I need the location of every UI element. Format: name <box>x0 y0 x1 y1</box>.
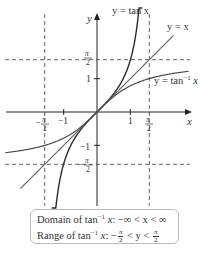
chart-plot: y x y = tan x y = x y = tan−1 x −1 1 1 −… <box>0 0 201 210</box>
domain-sup: −1 <box>98 213 105 221</box>
x-axis-label: x <box>186 115 192 127</box>
range-colon: : − <box>105 230 116 241</box>
range-sup: −1 <box>91 229 98 237</box>
tick-label-y-neg-pi-over-2-den: 2 <box>86 165 90 174</box>
curve-label-tan: y = tan x <box>112 5 150 16</box>
domain-range-box: Domain of tan−1 x: −∞ < x < ∞ Range of t… <box>30 209 179 244</box>
domain-rest: : −∞ < x < ∞ <box>112 214 166 225</box>
tick-label-x-neg-pi-over-2-den: 2 <box>43 124 47 133</box>
tick-label-y-pi-over-2-den: 2 <box>86 58 90 67</box>
range-prefix: Range of tan <box>37 230 91 241</box>
tick-label-x-pi-over-2-den: 2 <box>147 124 151 133</box>
tick-label-y-pi-over-2-num: π <box>85 49 89 58</box>
y-axis-label: y <box>86 12 92 24</box>
range-frac-high: π2 <box>153 229 159 244</box>
tick-label-y-neg-pi-over-2-num: π <box>85 156 89 165</box>
curve-label-arctan: y = tan−1 x <box>154 74 198 86</box>
curve-label-identity: y = x <box>167 21 189 32</box>
range-frac-low: π2 <box>118 229 124 244</box>
range-line: Range of tan−1 x: −π2 < y < π2 <box>37 228 178 244</box>
tick-label-x-neg1: −1 <box>58 116 68 126</box>
range-mid: < y < <box>124 230 152 241</box>
tick-label-x-1: 1 <box>128 116 133 126</box>
tick-label-y-neg-pi-over-2-sign: − <box>77 159 82 169</box>
tick-label-y-1: 1 <box>86 74 91 84</box>
domain-prefix: Domain of tan <box>37 214 98 225</box>
domain-line: Domain of tan−1 x: −∞ < x < ∞ <box>37 212 178 228</box>
y-axis-arrow-icon <box>94 13 100 20</box>
tick-label-y-neg1: −1 <box>80 142 90 152</box>
tick-label-x-pi-over-2-num: π <box>146 115 150 124</box>
tick-label-x-neg-pi-over-2-sign: − <box>35 117 40 127</box>
tick-label-x-neg-pi-over-2-num: π <box>42 115 46 124</box>
